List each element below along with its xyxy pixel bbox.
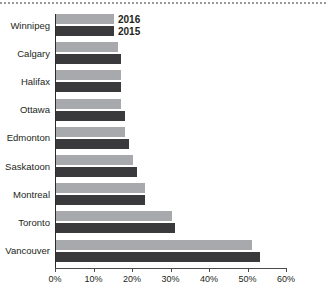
bar-halifax-2016 — [56, 70, 121, 80]
category-label-vancouver: Vancouver — [0, 245, 50, 256]
bar-group-ottawa: Ottawa — [0, 99, 326, 127]
legend-label-2016: 2016 — [118, 14, 140, 25]
bar-group-calgary: Calgary — [0, 42, 326, 70]
bar-vancouver-2015 — [56, 252, 260, 262]
x-tick-label-10: 10% — [79, 274, 109, 285]
bar-group-vancouver: Vancouver — [0, 240, 326, 268]
legend-entry-2015: 2015 — [104, 26, 174, 37]
x-tick-mark-10 — [94, 268, 95, 272]
category-label-montreal: Montreal — [0, 189, 50, 200]
legend-swatch-2015 — [104, 27, 113, 36]
x-tick-mark-0 — [55, 268, 56, 272]
legend-swatch-2016 — [104, 15, 113, 24]
bar-group-edmonton: Edmonton — [0, 127, 326, 155]
bar-saskatoon-2015 — [56, 167, 137, 177]
top-dotted-rule — [0, 2, 326, 4]
bar-group-montreal: Montreal — [0, 183, 326, 211]
category-label-toronto: Toronto — [0, 217, 50, 228]
x-tick-label-20: 20% — [117, 274, 147, 285]
x-tick-label-50: 50% — [233, 274, 263, 285]
bar-ottawa-2015 — [56, 111, 125, 121]
category-label-calgary: Calgary — [0, 48, 50, 59]
bar-montreal-2015 — [56, 195, 145, 205]
bar-group-halifax: Halifax — [0, 70, 326, 98]
bar-calgary-2015 — [56, 54, 121, 64]
category-label-halifax: Halifax — [0, 76, 50, 87]
category-label-saskatoon: Saskatoon — [0, 161, 50, 172]
legend-label-2015: 2015 — [118, 26, 140, 37]
bar-vancouver-2016 — [56, 240, 252, 250]
category-label-winnipeg: Winnipeg — [0, 20, 50, 31]
bar-edmonton-2016 — [56, 127, 125, 137]
x-tick-label-60: 60% — [271, 274, 301, 285]
bar-chart-figure: WinnipegCalgaryHalifaxOttawaEdmontonSask… — [0, 0, 326, 290]
category-label-edmonton: Edmonton — [0, 132, 50, 143]
category-label-ottawa: Ottawa — [0, 104, 50, 115]
x-tick-mark-50 — [248, 268, 249, 272]
bar-toronto-2015 — [56, 223, 175, 233]
x-tick-mark-20 — [132, 268, 133, 272]
bar-halifax-2015 — [56, 82, 121, 92]
bar-montreal-2016 — [56, 183, 145, 193]
x-tick-label-0: 0% — [40, 274, 70, 285]
x-tick-mark-30 — [171, 268, 172, 272]
bar-group-toronto: Toronto — [0, 211, 326, 239]
bar-group-saskatoon: Saskatoon — [0, 155, 326, 183]
bar-saskatoon-2016 — [56, 155, 133, 165]
x-tick-mark-40 — [209, 268, 210, 272]
bar-ottawa-2016 — [56, 99, 121, 109]
bar-edmonton-2015 — [56, 139, 129, 149]
legend-entry-2016: 2016 — [104, 14, 174, 25]
chart-legend: 2016 2015 — [104, 14, 174, 38]
x-tick-mark-60 — [286, 268, 287, 272]
x-tick-label-30: 30% — [156, 274, 186, 285]
bar-calgary-2016 — [56, 42, 118, 52]
bar-toronto-2016 — [56, 211, 172, 221]
x-tick-label-40: 40% — [194, 274, 224, 285]
